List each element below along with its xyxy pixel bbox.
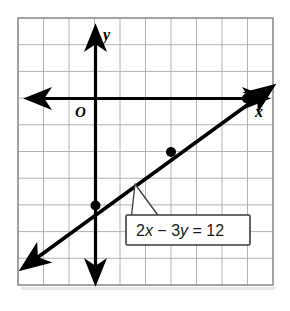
- figure-container: y x O 2x − 3y = 12: [0, 0, 290, 311]
- point-y-intercept: [91, 201, 101, 211]
- equation-coeff-2: 2: [136, 222, 145, 239]
- equation-label: 2x − 3y = 12: [136, 222, 224, 239]
- x-axis-label: x: [254, 103, 263, 120]
- equation-equals-12: = 12: [188, 222, 224, 239]
- coordinate-plane-graph: y x O 2x − 3y = 12: [0, 0, 290, 311]
- point-x-intercept: [242, 94, 252, 104]
- y-axis-label: y: [101, 26, 111, 44]
- frame-shadow: [21, 287, 275, 290]
- equation-minus-3: − 3: [153, 222, 180, 239]
- point-midpoint: [166, 147, 176, 157]
- origin-label: O: [75, 104, 86, 120]
